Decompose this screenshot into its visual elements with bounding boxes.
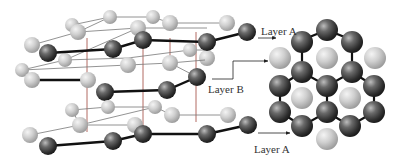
diagram-canvas: [0, 0, 402, 165]
label-layer-a-top: Layer A: [261, 25, 297, 37]
top-view: [269, 19, 386, 150]
hcp-stacking-diagram: Layer A Layer B Layer A: [0, 0, 402, 165]
label-layer-a-bottom: Layer A: [254, 143, 290, 155]
layer-b-arrow: [212, 61, 268, 79]
label-layer-b: Layer B: [208, 83, 244, 95]
